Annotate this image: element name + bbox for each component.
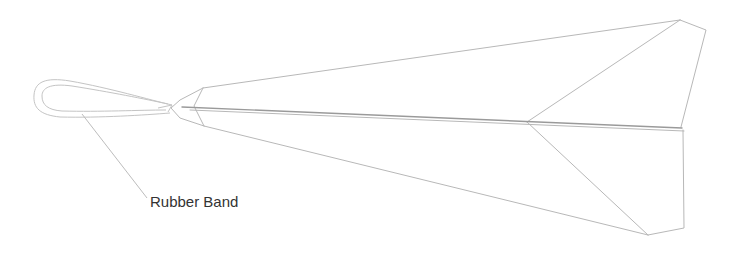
rubber-band-label: Rubber Band: [150, 194, 238, 209]
airplane-bottom-wing: [204, 122, 684, 235]
airplane-center-crease: [182, 107, 684, 131]
rubber-band-loop: [34, 80, 172, 118]
rubber-band-leader-line: [82, 114, 147, 198]
paper-airplane-diagram: [0, 0, 737, 256]
